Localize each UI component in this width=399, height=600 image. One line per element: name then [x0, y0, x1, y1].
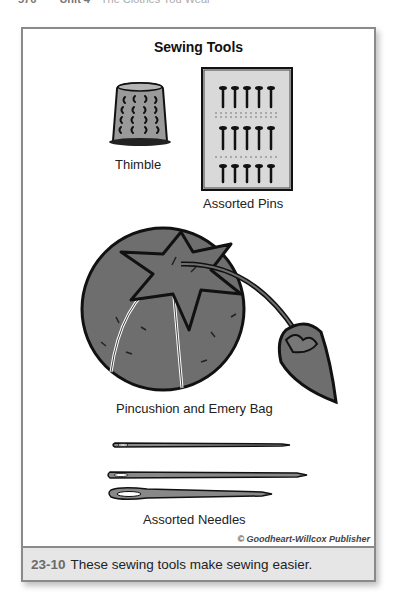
thimble-label: Thimble [115, 157, 161, 172]
needles-label: Assorted Needles [143, 512, 246, 527]
page-header: 576 Unit 4 The Clothes You Wear [18, 0, 211, 5]
pins-label: Assorted Pins [203, 196, 283, 211]
page-number: 576 [18, 0, 36, 5]
unit-title: The Clothes You Wear [101, 0, 211, 5]
needles-illustration [107, 437, 312, 502]
pincushion-illustration [81, 222, 321, 397]
caption-text: These sewing tools make sewing easier. [71, 557, 313, 572]
figure-number: 23-10 [31, 557, 66, 572]
figure-box: Sewing Tools Thimble [21, 27, 376, 582]
pins-illustration [201, 67, 293, 191]
credit-line: © Goodheart-Willcox Publisher [237, 534, 370, 544]
pincushion-label: Pincushion and Emery Bag [116, 401, 273, 416]
caption-bar: 23-10 These sewing tools make sewing eas… [23, 546, 374, 580]
figure-title: Sewing Tools [23, 39, 374, 55]
unit-label: Unit 4 [59, 0, 90, 5]
thimble-illustration [105, 81, 175, 151]
